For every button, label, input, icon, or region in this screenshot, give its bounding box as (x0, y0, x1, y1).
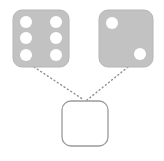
die-pip-icon (20, 49, 32, 61)
die-six[interactable] (13, 10, 69, 67)
connectors-layer (34, 67, 128, 100)
diagram-canvas (0, 0, 164, 161)
die-pip-icon (50, 16, 62, 28)
die-pip-icon (20, 32, 32, 44)
connector-right-to-result (87, 67, 128, 100)
nodes-layer (13, 10, 153, 146)
die-pip-icon (134, 48, 146, 60)
result-placeholder-body (62, 101, 108, 146)
die-pip-icon (20, 16, 32, 28)
die-pip-icon (50, 32, 62, 44)
die-pip-icon (106, 17, 118, 29)
die-pip-icon (50, 49, 62, 61)
die-two[interactable] (99, 10, 153, 67)
dice-inference-diagram (0, 0, 164, 161)
die-two-body (99, 10, 153, 67)
result-placeholder[interactable] (62, 101, 108, 146)
connector-left-to-result (34, 67, 84, 100)
